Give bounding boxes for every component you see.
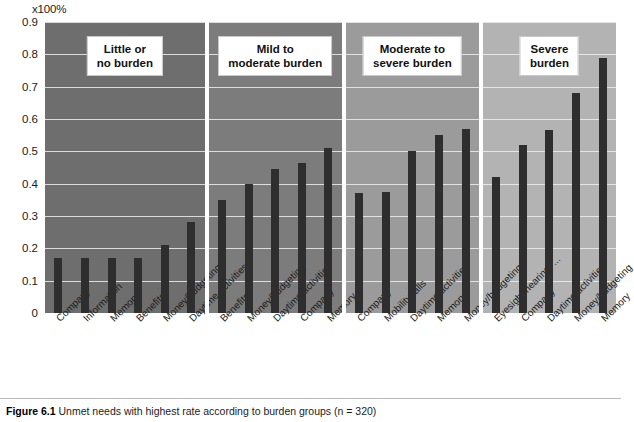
panel-title-box: Moderate tosevere burden [363, 36, 462, 76]
y-axis-tick-label: 0.7 [22, 81, 38, 93]
y-axis-tick-label: 0.4 [22, 178, 38, 190]
bar[interactable] [408, 151, 416, 313]
bar[interactable] [545, 130, 553, 313]
y-axis-unit-label: x100% [32, 3, 66, 15]
chart-panel: Little orno burden [45, 22, 205, 313]
panel-separator [479, 22, 483, 313]
figure-caption: Figure 6.1 Unmet needs with highest rate… [6, 405, 376, 417]
y-axis: 00.10.20.30.40.50.60.70.80.9 [0, 22, 42, 313]
bar[interactable] [218, 200, 226, 313]
bar[interactable] [599, 58, 607, 313]
y-axis-tick-label: 0.9 [22, 16, 38, 28]
y-axis-tick-label: 0.3 [22, 210, 38, 222]
panel-separator [205, 22, 209, 313]
caption-text: Unmet needs with highest rate according … [59, 405, 377, 417]
bar[interactable] [298, 163, 306, 313]
y-axis-tick-label: 0.1 [22, 275, 38, 287]
y-axis-tick-label: 0.5 [22, 145, 38, 157]
plot-area: Little orno burdenMild tomoderate burden… [45, 22, 616, 313]
bar[interactable] [382, 192, 390, 313]
bar[interactable] [271, 169, 279, 313]
bar[interactable] [245, 184, 253, 313]
bar[interactable] [519, 145, 527, 313]
caption-label: Figure 6.1 [6, 405, 56, 417]
panel-title-box: Mild tomoderate burden [218, 36, 332, 76]
chart-panel: Severeburden [483, 22, 616, 313]
bar[interactable] [161, 245, 169, 313]
caption-divider [0, 398, 621, 399]
bar[interactable] [108, 258, 116, 313]
panel-title-box: Severeburden [520, 36, 579, 76]
chart-panel: Moderate tosevere burden [346, 22, 479, 313]
bar[interactable] [324, 148, 332, 313]
bar[interactable] [187, 222, 195, 313]
bar[interactable] [355, 193, 363, 313]
bar[interactable] [572, 93, 580, 313]
bar[interactable] [462, 129, 470, 313]
bar[interactable] [81, 258, 89, 313]
bar[interactable] [435, 135, 443, 313]
bar[interactable] [492, 177, 500, 313]
y-axis-tick-label: 0.8 [22, 48, 38, 60]
bar[interactable] [54, 258, 62, 313]
bar[interactable] [134, 258, 142, 313]
y-axis-tick-label: 0 [32, 307, 38, 319]
panel-separator [342, 22, 346, 313]
y-axis-tick-label: 0.2 [22, 242, 38, 254]
chart-panel: Mild tomoderate burden [209, 22, 342, 313]
y-axis-tick-label: 0.6 [22, 113, 38, 125]
x-axis: CompanyInformationMemoryBenefitsMoney/bu… [45, 313, 616, 395]
panel-title-box: Little orno burden [87, 36, 163, 76]
